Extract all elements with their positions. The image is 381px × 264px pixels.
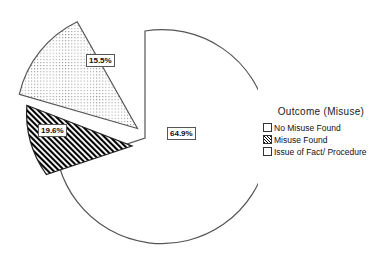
slice-label-no-misuse-found: 64.9% [167, 127, 196, 140]
chart-plot-area: 64.9% 19.6% 15.5% [0, 0, 258, 264]
legend-item-issue-of-fact: Issue of Fact/ Procedure [263, 146, 379, 157]
legend-item-no-misuse-found: No Misuse Found [263, 122, 379, 133]
blank-swatch-icon [263, 123, 272, 132]
legend-item-misuse-found: Misuse Found [263, 134, 379, 145]
legend-label-issue-of-fact: Issue of Fact/ Procedure [274, 147, 367, 157]
slice-label-issue-of-fact: 15.5% [86, 54, 115, 67]
slice-label-misuse-found: 19.6% [38, 124, 67, 137]
legend-title: Outcome (Misuse) [263, 106, 379, 117]
pie-chart-screenshot: 64.9% 19.6% 15.5% Outcome (Misuse) No Mi… [0, 0, 381, 264]
legend-label-misuse-found: Misuse Found [274, 135, 327, 145]
chart-legend: Outcome (Misuse) No Misuse Found Misuse … [263, 106, 379, 158]
dotted-swatch-icon [263, 147, 272, 156]
hatched-swatch-icon [263, 135, 272, 144]
legend-label-no-misuse-found: No Misuse Found [274, 123, 341, 133]
